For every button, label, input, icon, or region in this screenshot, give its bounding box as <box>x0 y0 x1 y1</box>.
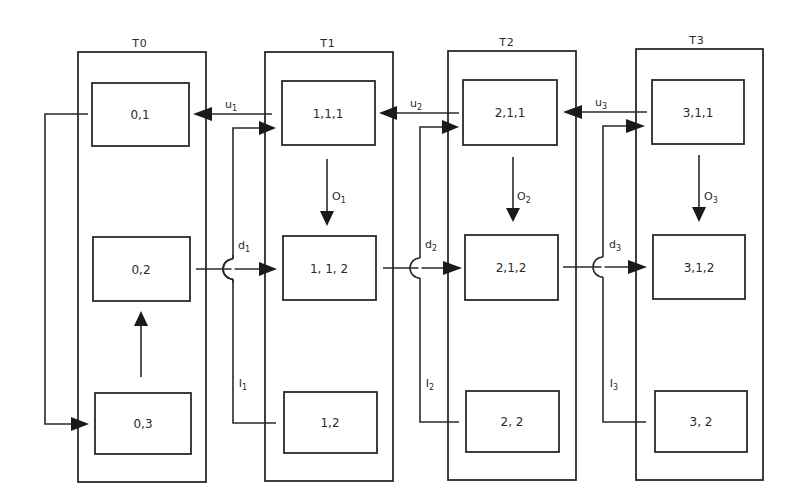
arrowhead-icon <box>134 311 148 326</box>
arrowhead-icon <box>71 417 89 431</box>
node-label-1-2: 1,2 <box>320 416 339 430</box>
arrowhead-icon <box>506 208 520 222</box>
node-label-2-1-2: 2,1,2 <box>496 261 527 275</box>
node-label-1-1-2: 1, 1, 2 <box>310 262 348 276</box>
node-label-3-1-2: 3,1,2 <box>684 261 715 275</box>
node-label-0-2: 0,2 <box>131 263 150 277</box>
edge-label-i1: I1 <box>239 377 247 390</box>
group-label-t1: T1 <box>320 37 336 50</box>
edge-label-i2: I2 <box>426 377 434 390</box>
arrowhead-icon <box>193 107 212 121</box>
edge-d2 <box>383 258 462 278</box>
node-label-1-1-1: 1,1,1 <box>313 107 344 121</box>
arrowhead-icon <box>259 121 276 135</box>
arrowhead-icon <box>692 207 706 222</box>
node-label-3-2: 3, 2 <box>690 415 713 429</box>
edge-label-u3: u3 <box>595 96 607 109</box>
arrowhead-icon <box>259 262 277 276</box>
arrowhead-icon <box>563 105 582 119</box>
group-label-t3: T3 <box>689 34 705 47</box>
diagram-canvas <box>0 0 803 504</box>
arrowhead-icon <box>442 120 459 134</box>
edge-0-1-to-0-3 <box>45 114 89 431</box>
edge-label-o1: O1 <box>332 190 346 203</box>
edge-label-u1: u1 <box>225 98 237 111</box>
group-label-t0: T0 <box>132 37 148 50</box>
edge-o3 <box>692 155 706 222</box>
edge-label-d1: d1 <box>238 239 250 252</box>
edge-label-o3: O3 <box>704 190 718 203</box>
node-label-0-1: 0,1 <box>130 108 149 122</box>
edge-0-3-to-0-2 <box>134 311 148 377</box>
node-label-3-1-1: 3,1,1 <box>683 106 714 120</box>
edge-label-d2: d2 <box>425 238 437 251</box>
arrowhead-icon <box>320 211 334 226</box>
edge-label-u2: u2 <box>410 97 422 110</box>
node-label-2-2: 2, 2 <box>501 415 524 429</box>
node-label-0-3: 0,3 <box>133 417 152 431</box>
edge-label-d3: d3 <box>609 238 621 251</box>
edge-label-o2: O2 <box>517 190 531 203</box>
arrowhead-icon <box>628 260 647 274</box>
arrowhead-icon <box>443 261 462 275</box>
edge-label-i3: I3 <box>610 377 618 390</box>
arrowhead-icon <box>379 106 397 120</box>
group-label-t2: T2 <box>499 36 515 49</box>
node-label-2-1-1: 2,1,1 <box>495 106 526 120</box>
